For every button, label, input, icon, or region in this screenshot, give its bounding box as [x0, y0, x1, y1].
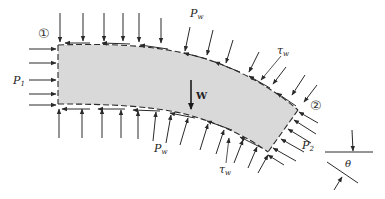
outlet-section-label: ② — [310, 98, 322, 113]
fluid-control-volume — [58, 44, 298, 152]
pw-bottom-label: Pw — [153, 142, 167, 156]
p2-label: P2 — [301, 139, 314, 153]
theta-label: θ — [345, 158, 351, 169]
tau-top-leader — [261, 56, 281, 80]
tau-bottom-leader — [226, 138, 229, 163]
tau-bottom-label: τw — [219, 163, 231, 177]
inlet-section-label: ① — [38, 26, 50, 41]
inlet-pressure-arrows — [29, 49, 56, 105]
tau-top-label: τw — [277, 44, 289, 58]
pipe-bend-diagram: ① ② P1 P2 Pw Pw τw τw W θ — [0, 0, 385, 199]
p1-label: P1 — [12, 74, 25, 88]
pw-top-label: Pw — [189, 7, 203, 21]
weight-label: W — [195, 90, 208, 101]
